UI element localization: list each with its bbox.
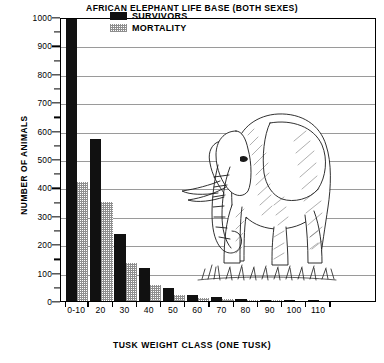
x-tick-label-60: 60 bbox=[192, 305, 202, 315]
x-tick-label-100: 100 bbox=[287, 305, 302, 315]
bar-mortality-0-10 bbox=[77, 182, 88, 301]
gridline-700 bbox=[61, 104, 375, 105]
x-tick-label-110: 110 bbox=[311, 305, 325, 315]
bar-survivors-60 bbox=[187, 295, 198, 301]
y-tick-mark-100 bbox=[52, 273, 60, 274]
y-tick-label-100: 100 bbox=[12, 269, 52, 279]
y-tick-mark-200 bbox=[52, 245, 60, 246]
y-tick-mark-900 bbox=[52, 46, 60, 47]
y-tick-label-800: 800 bbox=[12, 70, 52, 80]
y-tick-mark-800 bbox=[52, 74, 60, 75]
bar-survivors-40 bbox=[139, 268, 150, 301]
x-tick-label-40: 40 bbox=[144, 305, 154, 315]
y-tick-label-400: 400 bbox=[12, 183, 52, 193]
bar-survivors-70 bbox=[211, 297, 222, 301]
bar-survivors-0-10 bbox=[66, 18, 77, 301]
bar-mortality-30 bbox=[126, 263, 137, 301]
y-tick-mark-1000 bbox=[52, 17, 60, 18]
stippled-gray-swatch bbox=[110, 24, 127, 32]
elephant-illustration bbox=[174, 101, 349, 293]
chart-legend: SURVIVORSMORTALITY bbox=[110, 10, 188, 34]
y-tick-label-200: 200 bbox=[12, 240, 52, 250]
y-tick-mark-500 bbox=[52, 159, 60, 160]
y-tick-mark-0 bbox=[52, 301, 60, 302]
legend-item-survivors: SURVIVORS bbox=[110, 10, 188, 21]
bar-survivors-20 bbox=[90, 139, 101, 301]
y-tick-mark-400 bbox=[52, 188, 60, 189]
y-tick-mark-600 bbox=[52, 131, 60, 132]
bar-mortality-50 bbox=[174, 295, 185, 301]
bar-survivors-90 bbox=[260, 300, 271, 301]
bar-survivors-100 bbox=[284, 300, 295, 301]
x-tick-label-0-10: 0-10 bbox=[67, 305, 85, 315]
x-axis-tick-labels: 0-102030405060708090100110 bbox=[60, 305, 376, 321]
bar-mortality-80 bbox=[247, 300, 258, 301]
bar-mortality-20 bbox=[101, 202, 112, 301]
gridline-900 bbox=[61, 47, 375, 48]
y-tick-mark-300 bbox=[52, 216, 60, 217]
legend-item-mortality: MORTALITY bbox=[110, 22, 188, 33]
gridline-400 bbox=[61, 189, 375, 190]
solid-black-swatch bbox=[110, 12, 127, 20]
x-tick-label-20: 20 bbox=[95, 305, 105, 315]
bar-survivors-30 bbox=[114, 234, 125, 301]
y-tick-label-300: 300 bbox=[12, 212, 52, 222]
y-tick-label-700: 700 bbox=[12, 98, 52, 108]
bar-mortality-60 bbox=[198, 298, 209, 301]
gridline-800 bbox=[61, 76, 375, 77]
y-tick-label-1000: 1000 bbox=[12, 13, 52, 23]
gridline-600 bbox=[61, 133, 375, 134]
gridline-500 bbox=[61, 161, 375, 162]
chart-title: AFRICAN ELEPHANT LIFE BASE (BOTH SEXES) bbox=[0, 3, 384, 13]
y-tick-label-900: 900 bbox=[12, 41, 52, 51]
y-tick-mark-700 bbox=[52, 103, 60, 104]
chart-figure: AFRICAN ELEPHANT LIFE BASE (BOTH SEXES) … bbox=[0, 0, 384, 363]
x-tick-label-30: 30 bbox=[120, 305, 130, 315]
bar-mortality-90 bbox=[271, 300, 282, 301]
bar-survivors-80 bbox=[235, 299, 246, 301]
bar-survivors-50 bbox=[163, 288, 174, 301]
bar-mortality-40 bbox=[150, 285, 161, 301]
plot-area bbox=[60, 18, 376, 302]
legend-label-survivors: SURVIVORS bbox=[132, 11, 188, 21]
y-tick-label-500: 500 bbox=[12, 155, 52, 165]
x-axis-title: TUSK WEIGHT CLASS (ONE TUSK) bbox=[0, 340, 384, 350]
y-tick-label-0: 0 bbox=[12, 297, 52, 307]
legend-label-mortality: MORTALITY bbox=[132, 23, 187, 33]
bar-mortality-70 bbox=[222, 299, 233, 301]
x-tick-label-50: 50 bbox=[168, 305, 178, 315]
bar-survivors-110 bbox=[308, 300, 319, 301]
y-tick-label-600: 600 bbox=[12, 127, 52, 137]
x-tick-label-70: 70 bbox=[216, 305, 226, 315]
x-tick-label-90: 90 bbox=[265, 305, 275, 315]
x-tick-label-80: 80 bbox=[241, 305, 251, 315]
